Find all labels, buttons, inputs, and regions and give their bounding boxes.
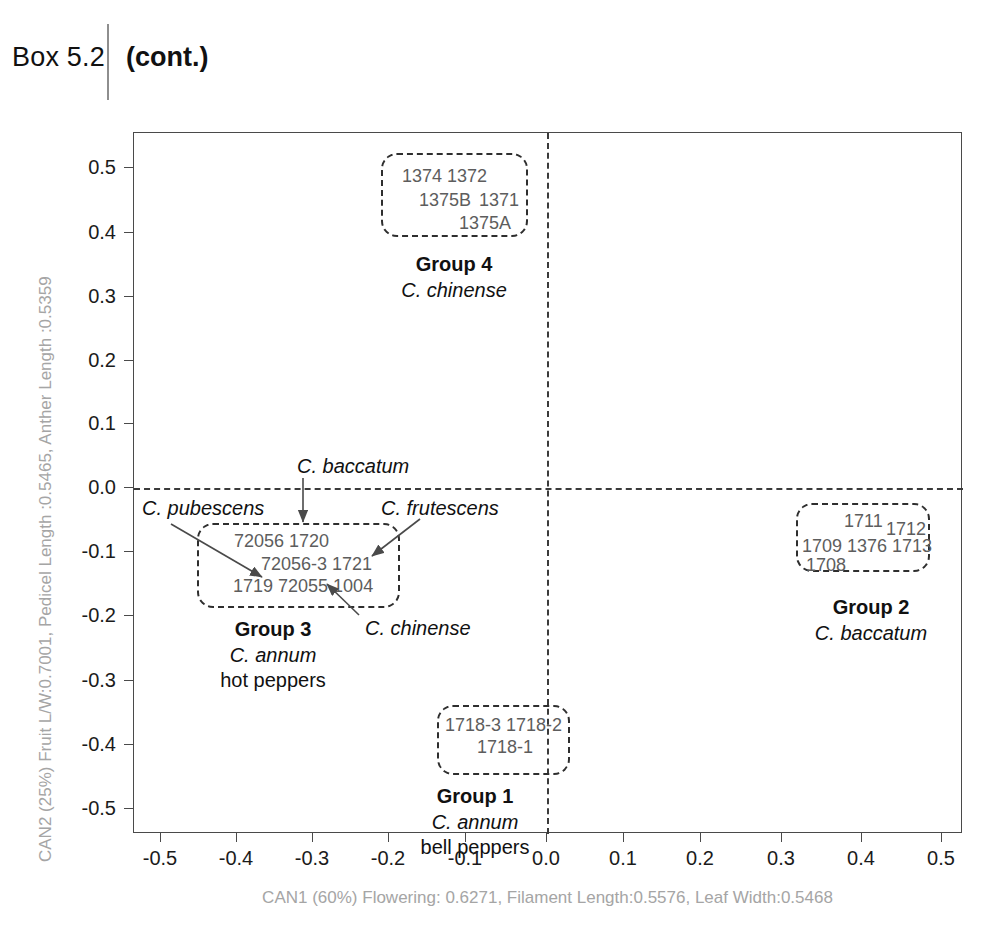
- group-title: Group 4: [401, 252, 507, 278]
- x-axis-tick-label: -0.2: [371, 847, 405, 870]
- x-axis-tick: [861, 833, 862, 842]
- y-axis-tick: [124, 232, 133, 233]
- y-axis-tick: [124, 615, 133, 616]
- accession-label: 1711: [844, 511, 883, 532]
- y-axis-tick-label: 0.3: [88, 285, 116, 308]
- accession-label: 1375B: [419, 190, 471, 211]
- x-axis-tick: [312, 833, 313, 842]
- accession-label: 72056 1720: [234, 531, 329, 552]
- y-axis-tick: [124, 296, 133, 297]
- annotation-c-baccatum: C. baccatum: [297, 455, 409, 478]
- annotation-c-chinense: C. chinense: [365, 617, 471, 640]
- x-axis-tick-label: 0.0: [532, 847, 560, 870]
- y-axis-tick-label: -0.2: [82, 604, 116, 627]
- annotation-c-pubescens: C. pubescens: [142, 497, 264, 520]
- x-axis-tick-label: -0.3: [295, 847, 329, 870]
- y-axis-tick-label: 0.1: [88, 412, 116, 435]
- y-axis-tick-label: 0.0: [88, 476, 116, 499]
- y-axis-tick: [124, 360, 133, 361]
- group-species: C. annum: [220, 643, 326, 669]
- box-header: Box 5.2 (cont.): [0, 0, 1003, 110]
- x-axis-tick-label: 0.3: [767, 847, 795, 870]
- y-axis-tick: [124, 167, 133, 168]
- x-axis-tick: [388, 833, 389, 842]
- y-axis-tick-label: -0.5: [82, 797, 116, 820]
- group-caption-group4: Group 4 C. chinense: [401, 252, 507, 303]
- accession-label: 1375A: [459, 213, 511, 234]
- accession-label: 1719 72055 1004: [233, 576, 373, 597]
- x-axis-tick-label: 0.5: [927, 847, 955, 870]
- accession-label: 1708: [806, 555, 846, 576]
- y-axis-title: CAN2 (25%) Fruit L/W:0.7001, Pedicel Len…: [36, 276, 56, 862]
- y-axis-tick-label: 0.4: [88, 221, 116, 244]
- x-axis-tick: [781, 833, 782, 842]
- y-axis-tick-label: -0.4: [82, 733, 116, 756]
- accession-label: 1718-1: [477, 737, 533, 758]
- accession-label: 1371: [479, 190, 519, 211]
- y-axis-tick-label: -0.1: [82, 540, 116, 563]
- group-title: Group 1: [421, 784, 530, 810]
- group-species: C. annum: [421, 810, 530, 836]
- x-axis-tick: [546, 833, 547, 842]
- annotation-c-frutescens: C. frutescens: [381, 497, 499, 520]
- accession-label: 1374 1372: [402, 166, 487, 187]
- x-axis-tick-label: -0.4: [219, 847, 253, 870]
- x-axis-tick: [623, 833, 624, 842]
- y-axis-tick-label: -0.3: [82, 669, 116, 692]
- accession-label: 1718-3 1718-2: [445, 715, 562, 736]
- x-axis-tick-label: 0.2: [686, 847, 714, 870]
- accession-label: 72056-3 1721: [261, 554, 372, 575]
- y-axis-tick: [124, 551, 133, 552]
- x-axis-tick-label: -0.5: [143, 847, 177, 870]
- y-axis-tick: [124, 680, 133, 681]
- x-axis-tick-label: -0.1: [448, 847, 482, 870]
- accession-label: 1709 1376 1713: [802, 536, 932, 557]
- x-axis-tick: [941, 833, 942, 842]
- x-axis-tick: [160, 833, 161, 842]
- header-divider: [107, 24, 109, 100]
- group-species: C. chinense: [401, 278, 507, 304]
- x-axis-tick: [236, 833, 237, 842]
- group-title: Group 2: [815, 595, 927, 621]
- group-title: Group 3: [220, 617, 326, 643]
- box-number-label: Box 5.2: [12, 42, 105, 73]
- y-axis-tick: [124, 744, 133, 745]
- y-axis-tick: [124, 808, 133, 809]
- group-species: C. baccatum: [815, 621, 927, 647]
- group-caption-group3: Group 3 C. annum hot peppers: [220, 617, 326, 694]
- y-axis-tick-label: 0.2: [88, 349, 116, 372]
- x-axis-tick: [465, 833, 466, 842]
- y-axis-tick: [124, 423, 133, 424]
- y-axis-tick-label: 0.5: [88, 156, 116, 179]
- x-axis-tick-label: 0.4: [847, 847, 875, 870]
- group-caption-group2: Group 2 C. baccatum: [815, 595, 927, 646]
- group-subtitle: hot peppers: [220, 668, 326, 694]
- y-axis-tick: [124, 487, 133, 488]
- x-axis-title: CAN1 (60%) Flowering: 0.6271, Filament L…: [133, 888, 962, 908]
- plot-area: 1374 1372 1375B 1371 1375A Group 4 C. ch…: [133, 132, 962, 833]
- box-continued-label: (cont.): [126, 42, 208, 73]
- x-axis-tick-label: 0.1: [609, 847, 637, 870]
- x-axis-tick: [700, 833, 701, 842]
